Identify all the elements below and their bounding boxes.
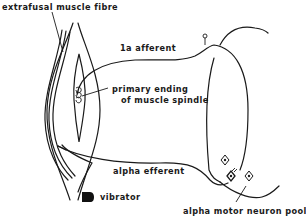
label-1a-afferent: 1a afferent (120, 43, 176, 53)
motor-neuron-icon (245, 171, 253, 181)
extrafusal-muscle-fibres (45, 12, 75, 180)
stretch-reflex-diagram: extrafusal muscle fibre 1a afferent prim… (0, 0, 306, 223)
label-primary-ending-line1: primary ending (112, 84, 188, 94)
motor-neuron-icon (227, 168, 237, 181)
label-primary-ending-line2: of muscle spindle (121, 95, 209, 105)
label-vibrator: vibrator (100, 192, 141, 202)
label-extrafusal-muscle-fibre: extrafusal muscle fibre (2, 2, 118, 12)
vibrator-icon (82, 192, 94, 202)
spinal-cord-outline (207, 27, 279, 197)
alpha-motor-neuron-pool (221, 155, 253, 202)
dorsal-root-ganglion-icon (203, 34, 207, 38)
muscle-spindle (74, 54, 85, 142)
motor-neuron-icon (221, 155, 229, 165)
label-alpha-motor-neuron-pool: alpha motor neuron pool (183, 206, 306, 216)
label-alpha-efferent: alpha efferent (113, 166, 185, 176)
